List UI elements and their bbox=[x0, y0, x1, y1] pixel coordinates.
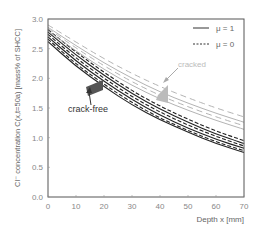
x-axis-label: Depth x [mm] bbox=[196, 215, 244, 224]
curve-crack-free-mu0 bbox=[48, 34, 244, 146]
legend-label-mu1: μ = 1 bbox=[216, 24, 235, 33]
cracked-arrow bbox=[166, 68, 178, 80]
y-tick-label: 1.0 bbox=[32, 134, 44, 143]
x-tick-label: 50 bbox=[184, 202, 193, 211]
crack-free-label: crack-free bbox=[68, 104, 108, 114]
data-curves bbox=[48, 25, 244, 153]
x-tick-label: 0 bbox=[46, 202, 51, 211]
chart: crack-free cracked 010203040506070 0.00.… bbox=[0, 0, 263, 230]
x-tick-label: 20 bbox=[100, 202, 109, 211]
y-tick-label: 0.0 bbox=[32, 193, 44, 202]
y-tick-label: 3.0 bbox=[32, 15, 44, 24]
y-axis-ticks: 0.00.51.01.52.02.53.0 bbox=[32, 15, 50, 202]
cracked-label: cracked bbox=[178, 60, 206, 69]
x-tick-label: 40 bbox=[156, 202, 165, 211]
legend-label-mu0: μ = 0 bbox=[216, 40, 235, 49]
x-tick-label: 60 bbox=[212, 202, 221, 211]
crack-free-shaded-region bbox=[86, 80, 103, 96]
y-tick-label: 2.5 bbox=[32, 45, 44, 54]
y-axis-label: Cl⁻ concentration C(x,t=50a) [mass% of S… bbox=[13, 29, 22, 187]
legend: μ = 1 μ = 0 bbox=[193, 24, 235, 49]
x-tick-label: 30 bbox=[128, 202, 137, 211]
x-tick-label: 10 bbox=[72, 202, 81, 211]
x-tick-label: 70 bbox=[240, 202, 249, 211]
y-tick-label: 1.5 bbox=[32, 104, 44, 113]
y-tick-label: 0.5 bbox=[32, 163, 44, 172]
y-tick-label: 2.0 bbox=[32, 74, 44, 83]
